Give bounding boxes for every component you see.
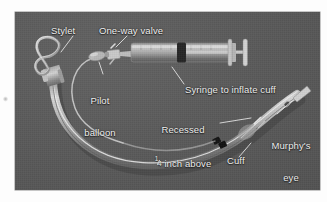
one-way-valve-part	[105, 44, 121, 64]
scan-artifact-mark	[3, 96, 8, 102]
inflation-line	[72, 58, 123, 143]
tube-illustration	[15, 12, 320, 190]
plunger-seal	[177, 43, 186, 63]
leader-pilot-balloon	[99, 62, 103, 74]
tube-shadow	[57, 84, 301, 171]
syringe-thumb-rest	[243, 39, 248, 66]
figure-root: Stylet One-way valve Pilot balloon Syrin…	[0, 0, 327, 202]
pilot-balloon	[88, 50, 106, 62]
leader-stylet	[61, 36, 73, 52]
syringe-part	[120, 39, 248, 66]
leader-one-way-valve	[116, 36, 127, 47]
endotracheal-tube-photo: Stylet One-way valve Pilot balloon Syrin…	[15, 12, 320, 190]
tube-body	[53, 78, 297, 165]
leader-recessed	[220, 118, 251, 123]
leader-syringe	[172, 67, 184, 84]
syringe-finger-flange	[228, 39, 232, 66]
inflation-line-distal	[123, 141, 215, 150]
